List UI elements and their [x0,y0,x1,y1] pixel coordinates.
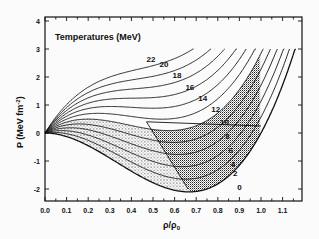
y-tick-label: -2 [34,186,40,193]
x-tick-label: 0.2 [83,207,93,214]
isotherm-label-T22: 22 [147,55,156,64]
y-axis-label: P (MeV fm-2) [15,96,25,148]
y-tick-label: 4 [36,18,40,25]
x-tick-label: 1.0 [256,207,266,214]
y-tick-label: 0 [36,130,40,137]
x-tick-label: 0.6 [170,207,180,214]
x-tick-label: 0.3 [105,207,115,214]
x-tick-label: 1.1 [278,207,288,214]
x-axis-label: ρ/ρ0 [163,220,181,231]
temperature-annotation: Temperatures (MeV) [55,32,141,42]
x-tick-label: 0.0 [40,207,50,214]
isotherm-label-T12: 12 [211,105,220,114]
y-tick-label: 1 [36,102,40,109]
y-tick-label: -1 [34,158,40,165]
x-tick-label: 0.8 [213,207,223,214]
isotherm-label-T14: 14 [198,94,207,103]
isotherm-label-T2: 2 [233,169,238,178]
y-tick-label: 2 [36,74,40,81]
x-tick-label: 0.5 [148,207,158,214]
isotherm-label-T10: 10 [220,118,229,127]
x-tick-label: 0.4 [127,207,137,214]
x-tick-label: 0.9 [235,207,245,214]
y-tick-label: 3 [36,46,40,53]
isotherm-label-T20: 20 [159,60,168,69]
x-tick-label: 0.1 [62,207,72,214]
equation-of-state-chart: 0.00.10.20.30.40.50.60.70.80.91.01.1-2-1… [0,0,319,239]
isotherm-label-T0: 0 [237,183,242,192]
isotherm-label-T18: 18 [172,71,181,80]
isotherm-T22 [45,49,194,133]
x-tick-label: 0.7 [191,207,201,214]
isotherm-label-T4: 4 [231,160,236,169]
isotherm-label-T16: 16 [185,83,194,92]
isotherm-label-T8: 8 [225,132,230,141]
isotherm-label-T6: 6 [229,146,234,155]
